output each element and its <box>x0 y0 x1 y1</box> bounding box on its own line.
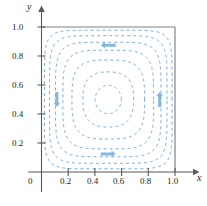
contour-curves <box>44 30 172 169</box>
y-tick-label-4: 1.0 <box>12 22 23 32</box>
flow-direction-arrows <box>53 42 163 158</box>
x-tick-label-1: 0.4 <box>87 176 98 186</box>
origin-label: 0 <box>28 176 33 186</box>
y-tick-label-1: 0.4 <box>12 109 23 119</box>
y-tick-label-0: 0.2 <box>12 138 23 148</box>
x-tick-label-3: 0.8 <box>140 176 151 186</box>
y-tick-label-3: 0.8 <box>12 51 23 61</box>
contour-plot-figure: y x 0 0.2 0.4 0.6 0.8 1.0 0.2 0.4 0.6 0.… <box>0 0 207 206</box>
y-axis-label: y <box>27 1 31 12</box>
axis-lines <box>28 6 200 193</box>
x-axis-label: x <box>197 172 201 183</box>
y-tick-label-2: 0.6 <box>12 80 23 90</box>
x-tick-label-2: 0.6 <box>113 176 124 186</box>
unit-square-boundary <box>42 27 176 172</box>
x-tick-label-0: 0.2 <box>60 176 71 186</box>
x-tick-label-4: 1.0 <box>167 176 178 186</box>
